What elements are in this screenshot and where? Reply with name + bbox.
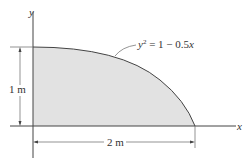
width-arrow-right-icon (190, 141, 195, 144)
equation-leader-line (115, 45, 136, 56)
curve-equation-label: y2 = 1 − 0.5x (137, 38, 194, 50)
height-dimension-label: 1 m (9, 83, 26, 95)
height-arrow-down-icon (19, 121, 22, 126)
y-axis-label: y (28, 6, 34, 18)
x-axis-label: x (236, 120, 242, 132)
area-diagram: y x 1 m 2 m y2 = 1 − 0.5x (0, 0, 251, 158)
shaded-area (33, 47, 195, 126)
width-arrow-left-icon (33, 141, 38, 144)
width-dimension-label: 2 m (107, 136, 124, 148)
height-arrow-up-icon (19, 47, 22, 52)
